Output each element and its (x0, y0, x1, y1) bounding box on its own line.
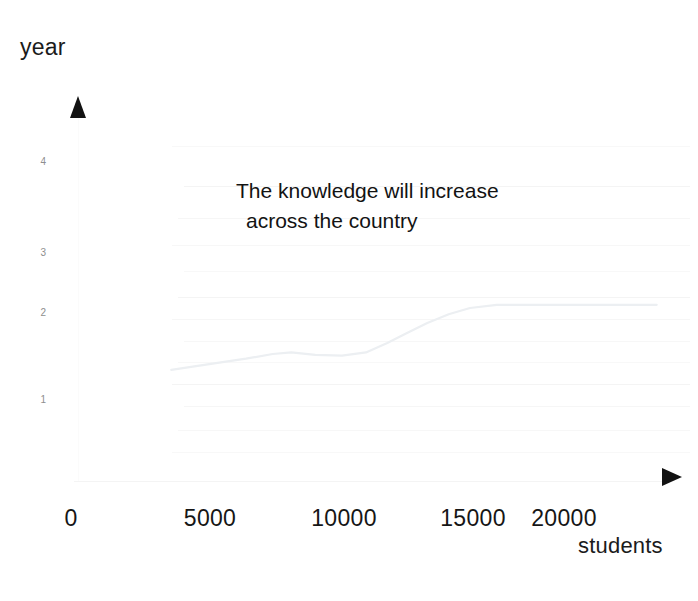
y-axis-line (78, 118, 79, 482)
y-tick-label-1: 1 (30, 394, 46, 405)
x-axis-arrow-icon (662, 468, 682, 486)
gridline (172, 452, 690, 453)
gridline (172, 319, 690, 320)
gridline (184, 406, 690, 407)
x-tick-label-0: 0 (46, 505, 96, 532)
y-axis-title: year (20, 34, 66, 61)
y-axis-arrow-icon (70, 96, 86, 118)
gridline (178, 430, 690, 431)
y-tick-label-4: 4 (30, 156, 46, 167)
chart-annotation: The knowledge will increase across the c… (236, 176, 556, 236)
x-axis-title: students (578, 533, 663, 559)
x-tick-label-20000: 20000 (509, 505, 619, 532)
x-axis-line (74, 481, 662, 482)
gridline (172, 245, 690, 246)
gridline (178, 362, 690, 363)
x-tick-label-10000: 10000 (289, 505, 399, 532)
series-line-knowledge (171, 305, 656, 370)
y-tick-label-2: 2 (30, 307, 46, 318)
gridline (184, 271, 690, 272)
gridline (178, 297, 690, 298)
annotation-line-2: across the country (236, 206, 556, 236)
x-tick-label-5000: 5000 (160, 505, 260, 532)
annotation-line-1: The knowledge will increase (236, 179, 499, 202)
chart-canvas: year 4 3 2 1 0 5000 10000 15000 20000 st… (0, 0, 698, 601)
gridline (172, 146, 690, 147)
y-tick-label-3: 3 (30, 247, 46, 258)
gridline (172, 384, 690, 385)
gridline (184, 341, 690, 342)
